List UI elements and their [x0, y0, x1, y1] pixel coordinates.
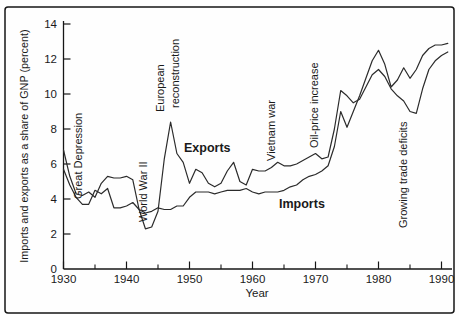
imports-label: Imports — [279, 197, 325, 211]
annotation-great-depression: Great Depression — [72, 113, 84, 199]
x-tick-label: 1990 — [429, 273, 455, 285]
y-tick-label: 8 — [51, 123, 57, 135]
x-tick-label: 1950 — [177, 273, 203, 285]
x-tick-label: 1980 — [366, 273, 392, 285]
y-axis-title: Imports and exports as a share of GNP (p… — [18, 29, 30, 262]
exports-line — [64, 52, 448, 229]
x-tick-label: 1930 — [51, 273, 77, 285]
x-tick-label: 1970 — [303, 273, 329, 285]
y-tick-label: 10 — [44, 88, 57, 100]
annotation-reconstruction: reconstruction — [169, 39, 181, 108]
annotation-european: European — [154, 64, 166, 112]
exports-label: Exports — [184, 141, 231, 155]
annotation-vietnam-war: Vietnam war — [265, 100, 277, 161]
y-tick-label: 4 — [51, 193, 58, 205]
annotation-world-war-ii: World War II — [137, 161, 149, 222]
y-tick-label: 12 — [44, 53, 57, 65]
x-axis-title: Year — [245, 287, 268, 299]
annotation-oil-price-increase: Oil-price increase — [308, 62, 320, 148]
figure-frame: 024681012141930194019501960197019801990Y… — [0, 0, 459, 320]
trade-share-chart: 024681012141930194019501960197019801990Y… — [0, 0, 459, 320]
x-tick-label: 1940 — [114, 273, 140, 285]
y-tick-label: 6 — [51, 158, 57, 170]
imports-line — [64, 43, 448, 213]
y-tick-label: 2 — [51, 228, 57, 240]
annotation-growing-trade-deficits: Growing trade deficits — [397, 121, 409, 228]
x-tick-label: 1960 — [240, 273, 266, 285]
y-tick-label: 14 — [44, 18, 57, 30]
